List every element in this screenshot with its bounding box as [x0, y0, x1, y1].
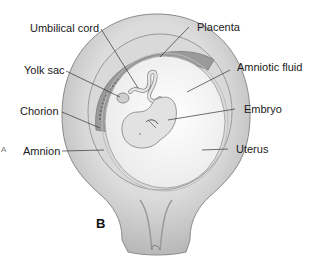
label-umbilical-cord: Umbilical cord — [30, 22, 99, 34]
label-uterus: Uterus — [236, 143, 268, 155]
label-chorion: Chorion — [20, 105, 59, 117]
yolk-sac — [117, 93, 129, 103]
uterus-illustration — [0, 0, 312, 264]
uterus-diagram: Umbilical cord Placenta Yolk sac Amnioti… — [0, 0, 312, 264]
label-amniotic-fluid: Amniotic fluid — [237, 61, 302, 73]
panel-letter: B — [96, 216, 105, 231]
label-placenta: Placenta — [197, 21, 240, 33]
label-amnion: Amnion — [23, 145, 60, 157]
prev-panel-fragment: A — [1, 145, 6, 154]
label-embryo: Embryo — [244, 103, 282, 115]
label-yolk-sac: Yolk sac — [24, 64, 65, 76]
